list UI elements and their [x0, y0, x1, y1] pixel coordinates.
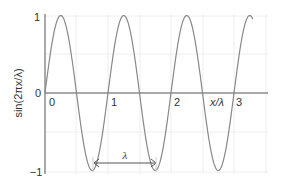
x-axis-label: x/λ — [209, 96, 224, 108]
x-tick-2: 2 — [174, 96, 180, 108]
x-tick-3: 3 — [236, 96, 242, 108]
y-axis-label: sin(2πx/λ) — [12, 68, 24, 117]
y-tick-neg1: −1 — [30, 166, 43, 178]
x-tick-0: 0 — [49, 96, 55, 108]
wavelength-annotation: λ — [93, 149, 156, 172]
wavelength-label: λ — [122, 149, 128, 161]
sine-wave-chart: 1 0 −1 0 1 2 3 x/λ sin(2πx/λ) λ — [0, 0, 281, 185]
x-tick-1: 1 — [111, 96, 117, 108]
y-tick-1: 1 — [34, 11, 40, 23]
gridlines — [45, 14, 268, 174]
y-tick-0: 0 — [35, 87, 41, 99]
